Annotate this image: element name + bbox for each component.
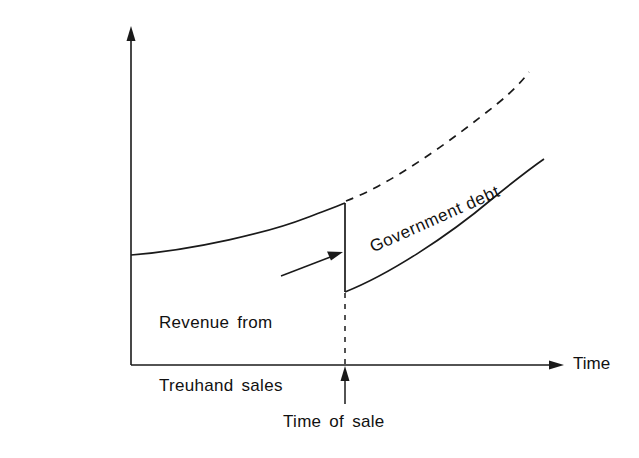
annotation-revenue-line-1: Revenue from bbox=[159, 313, 283, 334]
revenue-annotation-arrow-icon bbox=[281, 252, 343, 277]
chart-figure: Time Revenue from Treuhand sales Time of… bbox=[0, 0, 639, 458]
time-of-sale-arrow-icon bbox=[341, 366, 350, 404]
y-axis-arrow-icon bbox=[127, 26, 136, 41]
annotation-time-of-sale: Time of sale bbox=[283, 412, 385, 433]
annotation-revenue-from-treuhand-sales: Revenue from Treuhand sales bbox=[159, 272, 283, 438]
annotation-revenue-line-2: Treuhand sales bbox=[159, 376, 283, 397]
chart-plot-area bbox=[0, 0, 639, 458]
x-axis-label: Time bbox=[573, 354, 610, 375]
series-net-liabilities-before-sale bbox=[131, 203, 345, 255]
x-axis-arrow-icon bbox=[549, 361, 564, 370]
series-counterfactual-dashed bbox=[346, 72, 529, 201]
y-axis bbox=[127, 26, 136, 365]
